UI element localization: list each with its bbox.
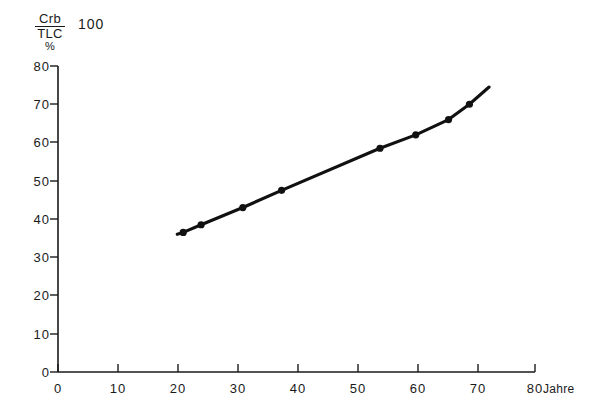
data-point	[445, 116, 452, 123]
plot-area	[0, 0, 595, 415]
x-axis	[58, 364, 535, 372]
y-axis-ticks	[50, 66, 58, 372]
data-point	[239, 204, 246, 211]
data-point	[180, 229, 187, 236]
data-point	[198, 221, 205, 228]
data-point	[376, 145, 383, 152]
y-axis	[50, 66, 58, 372]
data-point	[412, 131, 419, 138]
chart-figure: Crb TLC % 100 80 70 60 50 40 30 20 10 0 …	[0, 0, 595, 415]
series-line	[177, 87, 489, 234]
data-point	[278, 187, 285, 194]
x-axis-ticks	[58, 364, 535, 372]
data-point	[466, 101, 473, 108]
data-series	[177, 87, 489, 236]
